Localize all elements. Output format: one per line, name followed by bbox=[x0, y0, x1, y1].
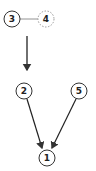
node-3-label: 3 bbox=[9, 14, 15, 24]
node-2: 2 bbox=[16, 83, 32, 99]
node-1-label: 1 bbox=[44, 153, 50, 163]
node-4: 4 bbox=[38, 11, 54, 27]
node-5-label: 5 bbox=[76, 86, 82, 96]
node-4-label: 4 bbox=[43, 14, 49, 24]
node-5: 5 bbox=[71, 83, 87, 99]
node-1: 1 bbox=[39, 150, 55, 166]
graph-diagram: 3 4 2 5 1 bbox=[0, 0, 96, 171]
node-3: 3 bbox=[4, 11, 20, 27]
node-2-label: 2 bbox=[21, 86, 27, 96]
edge-2-1 bbox=[27, 99, 42, 148]
edge-5-1 bbox=[52, 99, 76, 148]
